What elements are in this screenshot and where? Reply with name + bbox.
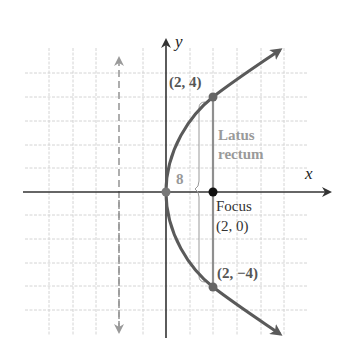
focus-label-line2: (2, 0) bbox=[216, 218, 249, 235]
x-axis-label: x bbox=[305, 164, 313, 184]
vertex-point bbox=[162, 188, 171, 197]
lower-point-label: (2, −4) bbox=[217, 265, 258, 282]
focus-point bbox=[209, 188, 218, 197]
length-label: 8 bbox=[176, 171, 184, 188]
y-axis-label: y bbox=[175, 32, 183, 52]
latus-rectum-label-line2: rectum bbox=[218, 146, 264, 163]
upper-point-label: (2, 4) bbox=[169, 74, 202, 91]
point-upper bbox=[209, 93, 218, 102]
focus-label-line1: Focus bbox=[216, 198, 252, 215]
parabola-diagram bbox=[0, 0, 339, 345]
latus-rectum-label-line1: Latus bbox=[218, 127, 255, 144]
point-lower bbox=[209, 283, 218, 292]
